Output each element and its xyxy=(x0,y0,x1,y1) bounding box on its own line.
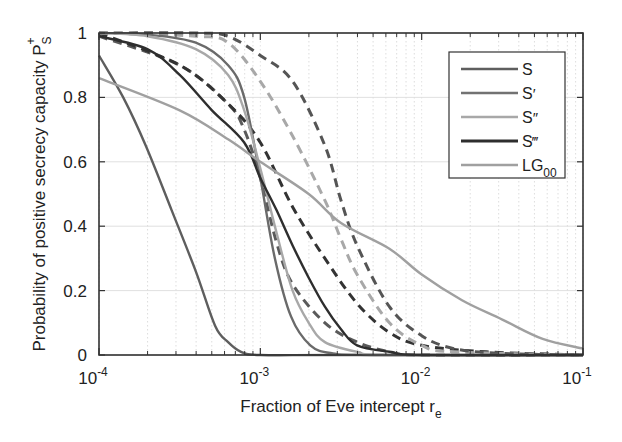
x-tick-label: 10-2 xyxy=(401,365,431,388)
legend: SS′S″S‴LG00 xyxy=(449,52,565,180)
legend-label: S′ xyxy=(522,85,536,102)
x-tick-label: 10-4 xyxy=(78,365,108,388)
y-tick-labels: 00.20.40.60.81 xyxy=(63,24,87,365)
y-tick-label: 0 xyxy=(78,346,87,365)
y-tick-label: 0.8 xyxy=(63,88,87,107)
y-tick-label: 1 xyxy=(78,24,87,43)
legend-box xyxy=(449,52,565,178)
y-axis-label: Probability of positive secrecy capacity… xyxy=(24,36,54,351)
y-tick-label: 0.6 xyxy=(63,153,87,172)
x-axis-label: Fraction of Eve intercept re xyxy=(240,397,442,421)
x-tick-label: 10-3 xyxy=(240,365,270,388)
chart: 00.20.40.60.81 10-410-310-210-1 Fraction… xyxy=(0,0,622,442)
legend-label: S xyxy=(522,61,533,78)
legend-label: S‴ xyxy=(522,133,539,150)
x-tick-label: 10-1 xyxy=(562,365,592,388)
legend-label: S″ xyxy=(522,109,539,126)
y-tick-label: 0.2 xyxy=(63,282,87,301)
y-tick-label: 0.4 xyxy=(63,217,87,236)
x-tick-labels: 10-410-310-210-1 xyxy=(78,365,592,388)
